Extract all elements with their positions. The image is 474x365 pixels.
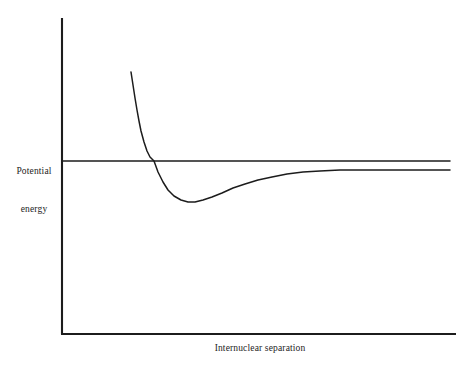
potential-energy-diagram: Potential energy Internuclear separation (0, 0, 474, 365)
y-axis-label: Potential energy (8, 140, 60, 240)
y-axis-label-line-1: Potential (8, 165, 60, 178)
x-axis-label: Internuclear separation (160, 342, 360, 355)
y-axis-label-line-2: energy (8, 203, 60, 216)
potential-energy-curve (131, 72, 450, 202)
plot-canvas (0, 0, 474, 365)
